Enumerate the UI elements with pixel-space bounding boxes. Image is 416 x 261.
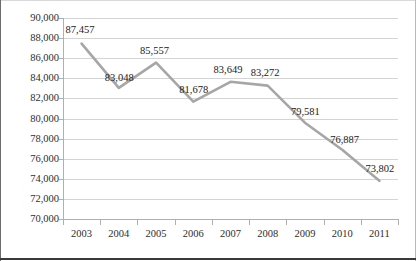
- data-point-label: 85,557: [140, 45, 169, 56]
- data-point-label: 83,272: [251, 67, 280, 78]
- data-point-label: 87,457: [66, 24, 95, 35]
- data-point-label: 79,581: [291, 106, 320, 117]
- data-point-label: 76,887: [330, 134, 359, 145]
- data-point-label: 83,048: [105, 72, 134, 83]
- data-point-label: 73,802: [365, 163, 394, 174]
- data-point-label: 83,649: [214, 64, 243, 75]
- data-point-label: 81,678: [179, 84, 208, 95]
- line-series: [0, 0, 416, 261]
- chart-screenshot: 90,00088,00086,00084,00082,00080,00078,0…: [0, 0, 416, 261]
